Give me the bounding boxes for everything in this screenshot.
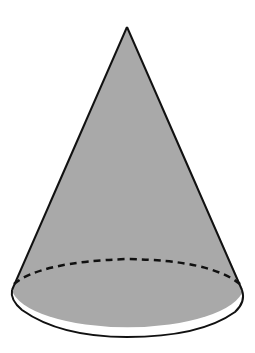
cone-diagram: Cone	[0, 0, 255, 353]
cone-icon	[0, 0, 255, 353]
cone-body	[12, 27, 243, 327]
